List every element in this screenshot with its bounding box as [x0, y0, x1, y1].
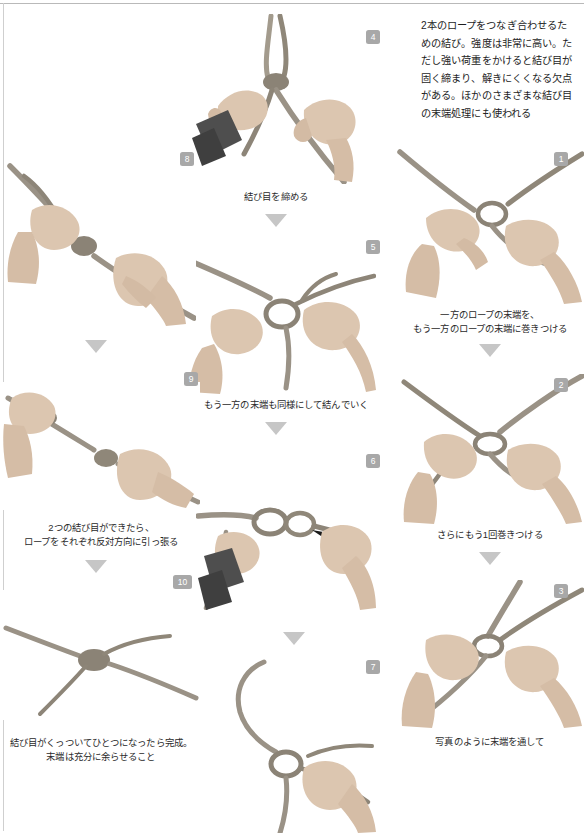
step-10-badge: 10	[173, 575, 192, 589]
step-9-photo	[2, 382, 200, 510]
step-6-photo	[196, 452, 376, 610]
step-9-caption: 2つの結び目ができたら、 ロープをそれぞれ反対方向に引っ張る	[6, 521, 196, 548]
step-4-photo	[176, 14, 376, 184]
step-3-badge: 3	[554, 584, 568, 598]
step-5-to-6-arrow	[265, 422, 287, 435]
step-2-photo	[396, 374, 584, 526]
top-divider-rule	[0, 3, 584, 4]
step-4-caption: 結び目を締める	[196, 190, 356, 204]
step-1-to-2-arrow	[479, 344, 501, 357]
step-4-badge: 4	[366, 30, 380, 44]
intro-paragraph: 2本のロープをつなぎ合わせるための結び。強度は非常に高い。ただし強い荷重をかける…	[421, 17, 573, 122]
step-7-photo	[204, 656, 380, 833]
step-2-caption: さらにもう1回巻きつける	[420, 528, 560, 542]
step-10-photo	[2, 590, 200, 720]
step-1-caption: 一方のロープの末端を、 もう一方のロープの末端に巻きつける	[400, 308, 580, 335]
step-8-badge: 8	[180, 152, 194, 166]
step-2-badge: 2	[554, 378, 568, 392]
step-9-badge: 9	[184, 372, 198, 386]
step-4-to-5-arrow	[265, 214, 287, 227]
step-6-badge: 6	[366, 454, 380, 468]
step-3-photo	[396, 580, 584, 730]
step-1-badge: 1	[554, 152, 568, 166]
step-5-photo	[186, 238, 376, 394]
step-6-to-7-arrow	[283, 632, 305, 645]
knot-instruction-page: 2本のロープをつなぎ合わせるための結び。強度は非常に高い。ただし強い荷重をかける…	[0, 0, 584, 833]
step-7-badge: 7	[366, 660, 380, 674]
step-5-caption: もう一方の末端も同様にして結んでいく	[196, 398, 376, 412]
step-2-to-3-arrow	[479, 552, 501, 565]
step-5-badge: 5	[366, 240, 380, 254]
step-1-photo	[396, 148, 584, 306]
step-10-caption: 結び目がくっついてひとつになったら完成。 末端は充分に余らせること	[6, 736, 196, 763]
step-3-caption: 写真のように末端を通して	[420, 735, 560, 749]
step-8-to-9-arrow	[85, 340, 107, 353]
step-8-photo	[4, 162, 196, 326]
step-9-to-10-arrow	[85, 560, 107, 573]
